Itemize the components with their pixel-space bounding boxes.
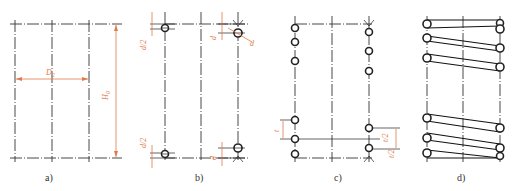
caption-d: d) [457, 172, 465, 183]
half-t-label-upper: t/2 [381, 134, 390, 142]
caption-b: b) [195, 172, 203, 183]
t-label: t [272, 129, 281, 132]
d-label-angle: d [250, 39, 255, 48]
half-t-label-lower: t/2 [387, 150, 396, 158]
spring-drawing-diagram: D2 H0 d/2 d/2 d d d [0, 0, 519, 191]
half-d-label-top: d/2 [139, 40, 148, 50]
panel-a: D2 H0 [10, 20, 122, 162]
panel-b: d/2 d/2 d d d [139, 12, 255, 168]
d-label-top: d [209, 35, 218, 40]
h0-label: H0 [101, 91, 111, 101]
panel-c: t t/2 t/2 [272, 16, 400, 162]
d2-label: D2 [45, 68, 55, 78]
caption-c: c) [334, 172, 342, 183]
caption-a: a) [45, 172, 53, 183]
half-d-label-bottom: d/2 [139, 138, 148, 148]
panel-d [423, 16, 504, 162]
d-label-bottom: d [209, 155, 218, 160]
